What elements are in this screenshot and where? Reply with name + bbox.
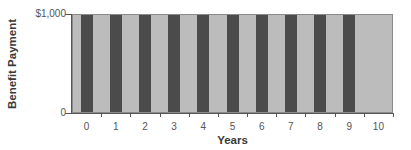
y-axis-label: Benefit Payment (2, 14, 22, 114)
bar (314, 15, 326, 112)
y-tick-max: $1,000 (35, 8, 66, 19)
x-tick-mark (160, 113, 161, 117)
x-tick-mark (130, 113, 131, 117)
x-tick-mark (189, 113, 190, 117)
bar (343, 15, 355, 112)
x-tick-label: 10 (368, 121, 388, 132)
bar (256, 15, 268, 112)
x-tick-mark (276, 113, 277, 117)
x-tick-label: 8 (310, 121, 330, 132)
plot-area (72, 14, 393, 113)
x-tick-mark (364, 113, 365, 117)
bar (139, 15, 151, 112)
bar (227, 15, 239, 112)
x-tick-mark (218, 113, 219, 117)
x-tick-label: 2 (135, 121, 155, 132)
x-axis (65, 113, 393, 114)
x-axis-label: Years (72, 134, 393, 146)
bar (285, 15, 297, 112)
x-tick-label: 5 (223, 121, 243, 132)
y-axis-label-text: Benefit Payment (6, 19, 18, 109)
x-tick-mark (247, 113, 248, 117)
x-tick-label: 6 (252, 121, 272, 132)
x-tick-mark (101, 113, 102, 117)
bar (81, 15, 93, 112)
bar (197, 15, 209, 112)
x-tick-label: 9 (339, 121, 359, 132)
x-tick-mark (305, 113, 306, 117)
x-tick-label: 1 (106, 121, 126, 132)
x-tick-label: 3 (164, 121, 184, 132)
x-tick-label: 4 (193, 121, 213, 132)
y-axis (71, 14, 72, 114)
x-tick-label: 7 (281, 121, 301, 132)
x-tick-mark (393, 113, 394, 117)
x-tick-label: 0 (77, 121, 97, 132)
bar (110, 15, 122, 112)
bar (168, 15, 180, 112)
x-tick-mark (335, 113, 336, 117)
